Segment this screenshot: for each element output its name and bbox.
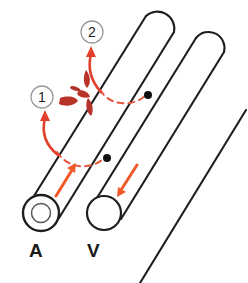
puncture-point-lower bbox=[103, 154, 111, 162]
artery-label: A bbox=[29, 240, 43, 262]
blood-droplet-1 bbox=[84, 70, 90, 88]
dashed-arc-upper bbox=[100, 90, 146, 103]
callout-2[interactable]: 2 bbox=[81, 21, 103, 43]
artery-outer-right-edge bbox=[59, 32, 174, 218]
artery-cross-section-lumen bbox=[32, 204, 51, 223]
artery-flow-arrow-shaft bbox=[56, 170, 72, 196]
curved-arrow-2-shaft bbox=[90, 54, 101, 92]
blood-droplet-5 bbox=[70, 86, 81, 91]
curved-arrow-1-head bbox=[40, 110, 50, 121]
blood-droplet-2 bbox=[59, 97, 78, 106]
vein-cross-section bbox=[87, 196, 121, 230]
callout-1-number: 1 bbox=[38, 89, 46, 105]
vein-label: V bbox=[87, 240, 100, 262]
blood-droplet-4 bbox=[86, 98, 92, 116]
callout-2-number: 2 bbox=[88, 24, 96, 40]
third-tube-left-edge bbox=[140, 110, 246, 283]
curved-arrow-1-shaft bbox=[44, 118, 58, 155]
dashed-arc-lower bbox=[57, 152, 104, 166]
artery-outer-left-edge bbox=[24, 16, 146, 212]
artery-flow-arrow bbox=[56, 163, 76, 196]
vein-top-cap bbox=[196, 32, 225, 52]
artery-top-cap bbox=[146, 12, 174, 32]
third-tube bbox=[140, 110, 246, 283]
vessel-group bbox=[23, 12, 246, 283]
callout-1[interactable]: 1 bbox=[31, 86, 53, 108]
vein-flow-arrow-shaft bbox=[121, 165, 137, 190]
puncture-point-upper bbox=[144, 91, 152, 99]
flow-arrow-group bbox=[56, 163, 137, 197]
puncture-point-group bbox=[103, 91, 152, 162]
vein-flow-arrow bbox=[117, 165, 137, 197]
curved-arrow-2-head bbox=[86, 46, 96, 57]
blood-spurt bbox=[59, 70, 93, 116]
vascular-access-diagram: 1 2 A V bbox=[0, 0, 248, 283]
